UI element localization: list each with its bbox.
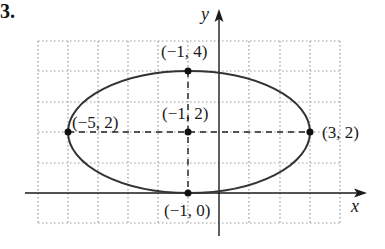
label-point-top: (−1, 4) — [161, 42, 207, 61]
problem-number: 3. — [0, 0, 15, 22]
x-axis-label: x — [350, 196, 359, 216]
point-center — [185, 129, 192, 136]
point-bottom — [185, 190, 192, 197]
point-top — [185, 68, 192, 75]
y-axis-label: y — [199, 4, 209, 24]
ellipse-graph: 3. x y — [0, 0, 385, 249]
label-point-bottom: (−1, 0) — [164, 201, 210, 220]
label-point-left: (−5, 2) — [72, 113, 118, 132]
label-point-center: (−1, 2) — [162, 104, 208, 123]
label-point-right: (3, 2) — [322, 123, 359, 142]
point-right — [307, 129, 314, 136]
point-left — [65, 129, 72, 136]
